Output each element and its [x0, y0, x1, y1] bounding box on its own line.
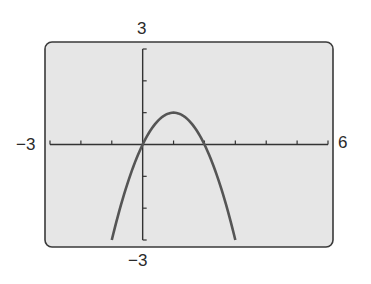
- graph-screen: [0, 0, 371, 284]
